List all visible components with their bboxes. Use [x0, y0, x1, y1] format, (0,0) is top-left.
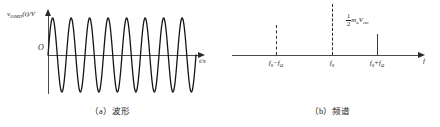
spectrum-tick-label-lower: f0−fΩ	[256, 60, 296, 67]
spectrum-tick-label-carrier: f0	[318, 60, 346, 67]
tick-carrier-f-sub: 0	[332, 63, 334, 68]
panel-spectrum: f 1 2 maVcm f0−fΩ f0 f0+fΩ （b）频谱	[220, 0, 440, 127]
amplitude-fraction-denominator: 2	[346, 21, 351, 28]
spectrum-line-upper-sideband	[377, 34, 378, 55]
tick-lower-f-sub: 0	[271, 63, 273, 68]
panel-waveform: vSSMD(t)/V O t/s （a）波形	[0, 0, 220, 127]
spectrum-f-axis-label: f	[423, 58, 425, 65]
tick-upper-f2-sub: Ω	[381, 63, 384, 68]
amplitude-symbol-v-sub: cm	[363, 20, 369, 25]
figure-container: vSSMD(t)/V O t/s （a）波形 f 1 2 maVcm	[0, 0, 440, 127]
spectrum-marker-lower-sideband	[276, 25, 277, 55]
spectrum-amplitude-annotation: 1 2 maVcm	[346, 13, 369, 28]
amplitude-symbol-m-sub: a	[356, 20, 358, 25]
amplitude-fraction: 1 2	[346, 13, 351, 28]
spectrum-f-axis	[232, 55, 418, 56]
tick-upper-f-sub: 0	[372, 63, 374, 68]
panel-spectrum-caption: （b）频谱	[220, 104, 440, 116]
spectrum-tick-label-upper: f0+fΩ	[357, 60, 397, 67]
spectrum-marker-carrier	[332, 4, 333, 55]
tick-lower-f2-sub: Ω	[280, 63, 283, 68]
panel-waveform-caption: （a）波形	[0, 104, 220, 116]
amplitude-fraction-numerator: 1	[346, 13, 351, 20]
